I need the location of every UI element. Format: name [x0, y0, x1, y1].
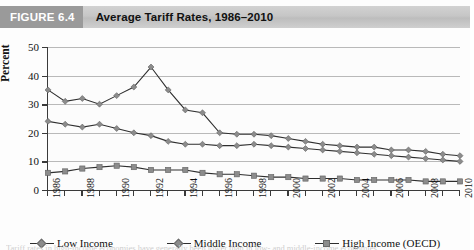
x-axis-tick-label: 2002: [326, 178, 337, 198]
y-axis-tick-label: 20: [28, 127, 39, 139]
x-axis-tick: [219, 191, 220, 196]
data-point-square: [337, 176, 342, 181]
x-axis-tick: [390, 191, 391, 196]
data-point-diamond: [234, 143, 240, 149]
data-point-diamond: [97, 101, 103, 107]
data-point-square: [269, 175, 274, 180]
data-point-diamond: [165, 138, 171, 144]
data-point-diamond: [182, 141, 188, 147]
figure-number-tag: FIGURE 6.4: [0, 6, 83, 28]
series-layer: [48, 47, 460, 190]
data-point-diamond: [354, 150, 360, 156]
data-point-diamond: [268, 143, 274, 149]
data-point-diamond: [114, 93, 120, 99]
x-axis-tick: [184, 191, 185, 196]
data-point-square: [131, 165, 136, 170]
data-point-diamond: [45, 87, 51, 93]
data-point-square: [423, 179, 428, 184]
data-point-square: [80, 166, 85, 171]
data-point-diamond: [337, 143, 343, 149]
data-point-diamond: [388, 147, 394, 153]
data-point-diamond: [251, 131, 257, 137]
figure-title-banner: FIGURE 6.4 Average Tariff Rates, 1986–20…: [0, 6, 470, 28]
data-point-square: [440, 179, 445, 184]
data-point-diamond: [406, 154, 412, 160]
x-axis-tick: [270, 191, 271, 196]
data-point-diamond: [371, 151, 377, 157]
data-point-diamond: [268, 133, 274, 139]
x-axis-tick-label: 1994: [188, 178, 199, 198]
data-point-square: [217, 172, 222, 177]
data-point-diamond: [79, 95, 85, 101]
data-point-square: [372, 177, 377, 182]
x-axis-tick: [305, 191, 306, 196]
data-point-square: [45, 170, 50, 175]
y-axis-tick-label: 30: [28, 98, 39, 110]
x-axis-tick: [253, 191, 254, 196]
data-point-square: [200, 170, 205, 175]
x-axis-tick: [408, 191, 409, 196]
x-axis-tick: [442, 191, 443, 196]
x-axis-tick-label: 2008: [429, 178, 440, 198]
y-axis-title: Percent: [0, 45, 11, 82]
data-point-diamond: [457, 158, 463, 164]
y-axis-tick-label: 0: [34, 184, 40, 196]
x-axis-tick: [202, 191, 203, 196]
x-axis-tick: [339, 191, 340, 196]
x-axis-tick: [133, 191, 134, 196]
data-point-diamond: [45, 118, 51, 124]
data-point-diamond: [423, 148, 429, 154]
plot-area: [47, 47, 460, 191]
data-point-diamond: [97, 121, 103, 127]
x-axis-tick-label: 2000: [291, 178, 302, 198]
y-axis-tick: [42, 161, 47, 162]
x-axis-tick: [236, 191, 237, 196]
data-point-diamond: [114, 126, 120, 132]
x-axis-tick: [47, 191, 48, 196]
y-axis-tick-label: 10: [28, 155, 39, 167]
x-axis-tick: [99, 191, 100, 196]
x-axis-tick: [356, 191, 357, 196]
x-axis-tick-label: 1996: [223, 178, 234, 198]
page-title: Average Tariff Rates, 1986–2010: [96, 11, 274, 23]
data-point-square: [457, 179, 462, 184]
data-point-diamond: [440, 157, 446, 163]
x-axis-tick: [81, 191, 82, 196]
y-axis-tick: [42, 133, 47, 134]
data-point-square: [234, 172, 239, 177]
x-axis-tick-label: 1998: [257, 178, 268, 198]
data-point-diamond: [303, 138, 309, 144]
data-point-square: [114, 163, 119, 168]
x-axis-tick: [425, 191, 426, 196]
data-point-diamond: [406, 147, 412, 153]
data-point-diamond: [320, 141, 326, 147]
x-axis-tick: [150, 191, 151, 196]
data-point-diamond: [234, 131, 240, 137]
data-point-diamond: [285, 136, 291, 142]
data-point-diamond: [62, 121, 68, 127]
data-point-diamond: [457, 153, 463, 159]
data-point-diamond: [62, 98, 68, 104]
data-point-diamond: [371, 144, 377, 150]
data-point-diamond: [131, 130, 137, 136]
data-point-diamond: [217, 143, 223, 149]
x-axis-tick-label: 1990: [120, 178, 131, 198]
data-point-diamond: [320, 147, 326, 153]
data-point-diamond: [200, 141, 206, 147]
y-axis-tick-label: 50: [28, 41, 39, 53]
y-axis-tick: [42, 76, 47, 77]
x-axis-tick: [322, 191, 323, 196]
data-point-diamond: [354, 144, 360, 150]
data-point-diamond: [251, 141, 257, 147]
data-point-square: [148, 167, 153, 172]
data-point-square: [354, 177, 359, 182]
y-axis-tick: [42, 104, 47, 105]
x-axis-tick-label: 2010: [463, 178, 474, 198]
data-point-diamond: [148, 133, 154, 139]
x-axis-tick-label: 2004: [360, 178, 371, 198]
x-axis-tick: [459, 191, 460, 196]
x-axis-tick: [287, 191, 288, 196]
x-axis-tick-label: 1992: [154, 178, 165, 198]
data-point-diamond: [303, 146, 309, 152]
